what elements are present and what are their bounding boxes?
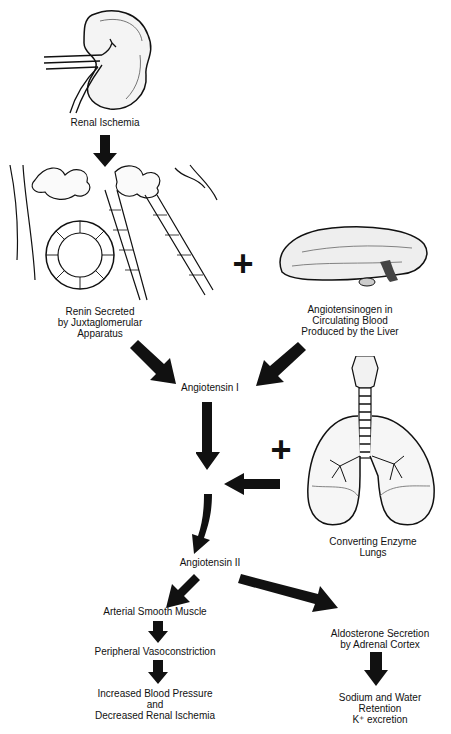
sodium-water-line-3: K⁺ excretion: [320, 714, 440, 725]
liver-icon: [272, 222, 432, 292]
sodium-water-line-1: Sodium and Water: [320, 692, 440, 703]
kidney-icon: [40, 5, 160, 115]
renin-line-2: by Juxtaglomerular: [40, 317, 160, 328]
blood-pressure-line-2: and: [80, 699, 230, 710]
converting-enzyme-line-1: Converting Enzyme: [318, 536, 428, 547]
angiotensin-1-label: Angiotensin I: [160, 382, 260, 393]
angiotensinogen-line-2: Circulating Blood: [285, 315, 415, 326]
angiotensinogen-line-1: Angiotensinogen in: [285, 304, 415, 315]
arrow-left-icon: [224, 473, 280, 495]
arrow-down-icon: [364, 652, 388, 686]
renin-label: Renin Secreted by Juxtaglomerular Appara…: [40, 306, 160, 339]
renal-ischemia-label: Renal Ischemia: [50, 117, 160, 128]
sodium-water-label: Sodium and Water Retention K⁺ excretion: [320, 692, 440, 725]
converting-enzyme-label: Converting Enzyme Lungs: [318, 536, 428, 558]
peripheral-vasoconstriction-label: Peripheral Vasoconstriction: [80, 646, 230, 657]
plus-lungs-operator: +: [266, 432, 296, 468]
arrow-down-icon: [148, 660, 168, 684]
renin-line-3: Apparatus: [40, 328, 160, 339]
angiotensinogen-label: Angiotensinogen in Circulating Blood Pro…: [285, 304, 415, 337]
blood-pressure-line-1: Increased Blood Pressure: [80, 688, 230, 699]
aldosterone-line-1: Aldosterone Secretion: [320, 628, 440, 639]
plus-liver-operator: +: [228, 246, 258, 282]
blood-pressure-line-3: Decreased Renal Ischemia: [80, 710, 230, 721]
angiotensinogen-line-3: Produced by the Liver: [285, 326, 415, 337]
arrow-diagonal-left-icon: [252, 342, 306, 388]
juxtaglomerular-apparatus-icon: [5, 160, 225, 310]
arterial-smooth-muscle-label: Arterial Smooth Muscle: [90, 606, 220, 617]
arrow-diagonal-right-icon: [238, 574, 338, 614]
arrow-diagonal-left-icon: [164, 574, 200, 610]
sodium-water-line-2: Retention: [320, 703, 440, 714]
lungs-icon: [300, 356, 440, 531]
converting-enzyme-line-2: Lungs: [318, 547, 428, 558]
aldosterone-label: Aldosterone Secretion by Adrenal Cortex: [320, 628, 440, 650]
arrow-diagonal-right-icon: [130, 340, 180, 386]
arrow-down-icon: [196, 402, 220, 470]
arrow-down-icon: [148, 621, 168, 643]
angiotensin-2-label: Angiotensin II: [160, 557, 260, 568]
arrow-curved-down-icon: [186, 494, 216, 554]
renin-line-1: Renin Secreted: [40, 306, 160, 317]
aldosterone-line-2: by Adrenal Cortex: [320, 639, 440, 650]
blood-pressure-label: Increased Blood Pressure and Decreased R…: [80, 688, 230, 721]
